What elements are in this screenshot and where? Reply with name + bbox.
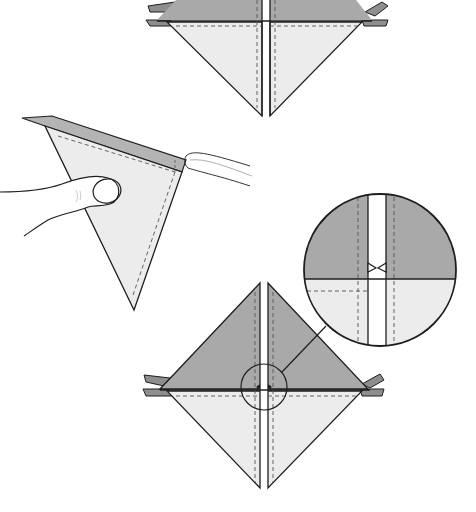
- top-right-dark-half: [270, 0, 372, 20]
- right-tab-upper: [365, 2, 388, 16]
- origami-diagram: [0, 0, 476, 512]
- top-left-light-half: [167, 22, 262, 116]
- hand-step: [0, 116, 252, 310]
- bottom-right-light-half: [268, 391, 362, 488]
- bottom-left-light-half: [167, 391, 260, 488]
- detail-magnified-view: [300, 190, 466, 359]
- top-right-light-half: [270, 22, 362, 116]
- top-diamond: [146, 0, 388, 116]
- creasing-finger-icon: [185, 153, 250, 186]
